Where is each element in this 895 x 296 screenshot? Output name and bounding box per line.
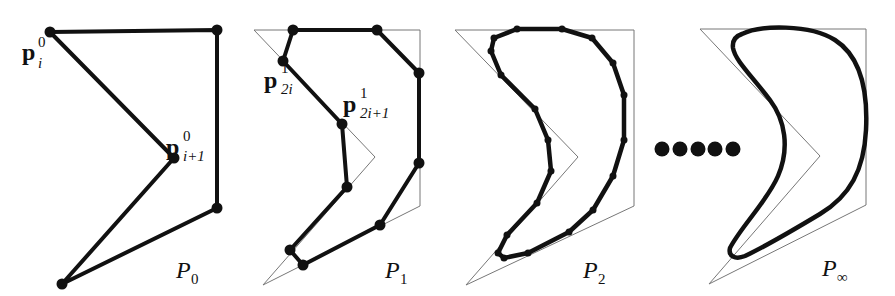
panel-label-p2-sub: 2 (598, 271, 606, 287)
control-point (590, 207, 597, 214)
control-point (691, 142, 706, 157)
label-p-2i1-1: p (343, 91, 356, 117)
control-point (610, 173, 617, 180)
label-p-i1-0: p (166, 134, 179, 160)
control-point (501, 255, 508, 262)
label-p-i1-0-sup: 0 (183, 128, 191, 144)
control-points-p2 (488, 26, 628, 262)
control-point (342, 182, 353, 193)
control-point (212, 203, 223, 214)
control-point (495, 250, 502, 257)
control-point (545, 137, 552, 144)
label-p-i1-0-sub: i+1 (183, 148, 205, 164)
label-p-2i1-1-sup: 1 (360, 85, 368, 101)
control-point (673, 142, 688, 157)
label-p-i-0-sup: 0 (38, 34, 46, 50)
control-point (491, 35, 498, 42)
panel-label-p2: P (582, 257, 598, 283)
control-point (621, 92, 628, 99)
panel-label-p0-sub: 0 (191, 271, 199, 287)
panel-label-pinf: P (821, 255, 837, 281)
panel-label-p0: P (175, 257, 191, 283)
control-point (57, 279, 68, 290)
control-point (548, 168, 555, 175)
control-point (559, 26, 566, 33)
control-point (488, 48, 495, 55)
control-point (726, 142, 741, 157)
label-p-2i-1-sub: 2i (281, 81, 293, 97)
control-point (525, 250, 532, 257)
label-p-2i-1: p (264, 67, 277, 93)
control-point (498, 72, 505, 79)
control-point (288, 25, 299, 36)
control-point (610, 60, 617, 67)
label-p-i-0-sub: i (38, 55, 42, 71)
control-point (621, 137, 628, 144)
control-point (212, 25, 223, 36)
control-point (414, 68, 425, 79)
control-point (372, 25, 383, 36)
control-points-p1 (278, 25, 425, 271)
control-point (532, 106, 539, 113)
panel-label-pinf-sub: ∞ (837, 269, 848, 285)
panel-label-p1: P (384, 257, 400, 283)
control-polygon-p2 (491, 29, 624, 258)
label-p-2i1-1-sub: 2i+1 (360, 105, 389, 121)
limit-curve-pinf (730, 28, 867, 258)
control-point (534, 200, 541, 207)
label-p-2i-1-sup: 1 (281, 60, 289, 76)
control-point (45, 27, 56, 38)
control-point (566, 229, 573, 236)
ellipsis-dots (655, 142, 741, 157)
control-polygon-p1 (283, 30, 419, 265)
label-p-i-0: p (22, 39, 35, 65)
control-point (414, 158, 425, 169)
panel-pinf: P ∞ (700, 28, 866, 285)
panel-label-p1-sub: 1 (400, 271, 408, 287)
subdivision-diagram: p 0 i p 0 i+1 P 0 p 1 2i p 1 2i+1 P 1 P … (0, 0, 895, 296)
control-point (589, 35, 596, 42)
control-point (708, 142, 723, 157)
control-point (285, 245, 296, 256)
control-point (298, 260, 309, 271)
control-point (514, 26, 521, 33)
control-point (337, 119, 348, 130)
panel-p2: P 2 (455, 26, 634, 288)
control-point (504, 232, 511, 239)
panel-p1: p 1 2i p 1 2i+1 P 1 (254, 25, 425, 288)
control-point (655, 142, 670, 157)
panel-p0: p 0 i p 0 i+1 P 0 (22, 25, 223, 290)
control-point (375, 220, 386, 231)
